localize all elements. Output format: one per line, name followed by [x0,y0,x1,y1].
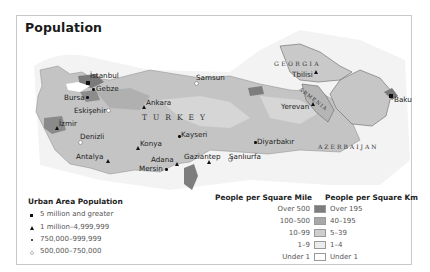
density-km-label: 40–195 [330,217,356,225]
label-azerbaijan: AZERBAIJAN [318,143,379,150]
city-konya[interactable]: Konya [140,139,162,148]
density-swatch-1-4 [314,241,326,249]
density-mile-title: People per Square Mile [215,193,312,202]
marker-tbilisi [314,70,318,74]
label-georgia: GEORGIA [274,60,321,67]
city-istanbul[interactable]: İstanbul [90,71,119,80]
marker-adana [175,162,179,166]
density-mile-label: 10–99 [250,229,310,237]
density-swatch-40-195 [314,217,326,225]
marker-gebze [92,88,95,91]
density-swatch-under-1 [314,253,326,261]
legend-dot-icon [31,239,33,241]
city-denizli[interactable]: Denizli [80,132,104,141]
marker-mersin [165,168,168,171]
city-tbilisi[interactable]: Tbilisi [292,70,313,79]
density-km-label: Over 195 [330,205,362,213]
legend-ring-icon [30,251,34,255]
density-km-label: 5–39 [330,229,347,237]
marker-antalya [106,159,110,163]
density-km-label: 1–4 [330,241,342,249]
urban-legend-item: 1 million–4,999,999 [40,223,109,231]
marker-istanbul [86,81,90,85]
city-samsun[interactable]: Samsun [196,73,225,82]
city-yerevan[interactable]: Yerevan [281,102,309,111]
marker-eskisehir [106,108,111,113]
city-mersin[interactable]: Mersin [139,164,163,173]
legend-triangle-icon [30,226,34,230]
legend-square-icon [30,214,33,217]
population-map [0,0,430,272]
city-adana[interactable]: Adana [151,155,174,164]
density-mile-label: Under 1 [250,253,310,261]
urban-legend-item: 500,000–750,000 [40,247,101,255]
city-antalya[interactable]: Antalya [76,152,103,161]
density-km-label: Under 1 [330,253,358,261]
density-swatch-over-195 [314,205,326,213]
marker-yerevan [311,102,315,106]
density-mile-label: 1–9 [250,241,310,249]
urban-legend-title: Urban Area Population [28,197,123,206]
density-mile-label: Over 500 [250,205,310,213]
city-diyarbakir[interactable]: Diyarbakır [257,137,294,146]
city-kayseri[interactable]: Kayseri [181,130,207,139]
marker-baku [389,94,393,98]
urban-legend-item: 750,000–999,999 [40,235,101,243]
city-sanliurfa[interactable]: Şanlıurfa [229,152,261,161]
label-turkey: TURKEY [142,113,211,122]
marker-bursa [86,96,89,99]
city-baku[interactable]: Baku [394,95,412,104]
urban-legend-item: 5 million and greater [40,210,113,218]
city-gaziantep[interactable]: Gaziantep [184,152,221,161]
city-izmir[interactable]: İzmir [59,119,77,128]
density-swatch-5-39 [314,229,326,237]
density-mile-label: 100–500 [250,217,310,225]
city-gebze[interactable]: Gebze [96,84,119,93]
city-bursa[interactable]: Bursa [64,93,85,102]
density-km-title: People per Square Km [325,193,418,202]
city-eskisehir[interactable]: Eskişehir [74,106,106,115]
city-ankara[interactable]: Ankara [146,98,171,107]
